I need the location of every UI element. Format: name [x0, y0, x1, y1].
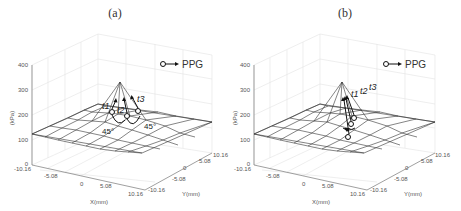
t2-label: t2 [117, 105, 125, 115]
x-tick-3: 5.08 [100, 183, 112, 189]
y-axis-label: Y(mm) [182, 191, 200, 197]
z-tick-200: 200 [18, 112, 29, 118]
angle-label-1: 45° [102, 127, 114, 136]
x-axis-label: X(mm) [90, 199, 108, 205]
z-tick-200: 200 [240, 112, 251, 118]
x-tick-0: -10.16 [234, 166, 252, 172]
y-tick-1: -5.08 [394, 176, 408, 182]
y-tick-3: 5.08 [199, 158, 211, 164]
angle-label-2: 45° [144, 122, 156, 131]
z-tick-400: 400 [240, 62, 251, 68]
z-tick-300: 300 [240, 87, 251, 93]
pressure-surface [32, 82, 212, 153]
arrow-right-icon [175, 62, 179, 66]
x-tick-2: 0 [302, 181, 306, 187]
x-tick-2: 0 [80, 181, 84, 187]
x-tick-3: 5.08 [322, 183, 334, 189]
x-tick-4: 10.16 [128, 191, 144, 197]
arrow-right-icon [398, 62, 402, 66]
t3-label: t3 [137, 94, 145, 104]
y-tick-2: 0 [183, 165, 187, 171]
surface-plot: 400 300 200 100 0 (kPa) -10.16 -5.08 0 5… [230, 0, 460, 211]
t3-label: t3 [369, 82, 377, 92]
x-tick-1: -5.08 [266, 173, 280, 179]
chart-panel-b: (b) 400 300 200 100 0 (kPa) -1 [230, 0, 460, 211]
y-tick-2: 0 [405, 165, 409, 171]
ppg-legend-marker-icon [161, 62, 166, 67]
y-axis-label: Y(mm) [404, 191, 422, 197]
chart-panel-a: (a) 400 300 [0, 0, 230, 211]
t1-label: t1 [102, 101, 110, 111]
legend: PPG [384, 59, 427, 70]
z-tick-100: 100 [18, 137, 29, 143]
z-axis-label: (kPa) [232, 111, 238, 125]
x-tick-4: 10.16 [350, 191, 366, 197]
pressure-surface [254, 82, 435, 153]
x-tick-1: -5.08 [44, 173, 58, 179]
t1-label: t1 [351, 89, 359, 99]
z-axis-label: (kPa) [9, 111, 15, 125]
surface-plot: 400 300 200 100 0 (kPa) -10.16 -5.08 0 5… [0, 0, 230, 211]
y-tick-0: -10.16 [370, 187, 388, 193]
ppg-legend-marker-icon [384, 62, 389, 67]
x-tick-0: -10.16 [14, 166, 32, 172]
arrow-heads [114, 95, 135, 103]
legend-label: PPG [182, 59, 203, 70]
z-tick-300: 300 [18, 87, 29, 93]
t2-label: t2 [360, 86, 368, 96]
x-axis-label: X(mm) [312, 199, 330, 205]
y-tick-0: -10.16 [148, 187, 166, 193]
legend-label: PPG [405, 59, 426, 70]
z-tick-100: 100 [240, 137, 251, 143]
z-tick-400: 400 [18, 62, 29, 68]
y-tick-3: 5.08 [421, 158, 433, 164]
legend: PPG [161, 59, 204, 70]
y-tick-4: 10.16 [213, 152, 229, 158]
y-tick-4: 10.16 [435, 152, 451, 158]
y-tick-1: -5.08 [172, 176, 186, 182]
